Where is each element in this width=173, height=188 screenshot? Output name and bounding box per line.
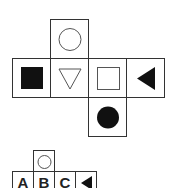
- face-bottom: [88, 97, 127, 137]
- option-label-b: B: [34, 175, 54, 188]
- circle-filled-icon: [89, 98, 128, 138]
- face-center-right: [88, 58, 127, 98]
- triangle-left-filled-icon: [127, 59, 166, 99]
- option-label-a: A: [13, 175, 33, 188]
- option-top: [33, 150, 55, 172]
- face-left: [12, 58, 51, 98]
- triangle-left-filled-icon: [76, 172, 98, 188]
- face-right: [126, 58, 165, 98]
- option-b[interactable]: B: [33, 171, 55, 188]
- circle-outline-icon: [34, 151, 56, 173]
- circle-outline-icon: [51, 20, 90, 60]
- square-filled-icon: [13, 59, 52, 99]
- option-a[interactable]: A: [12, 171, 34, 188]
- face-top: [50, 19, 89, 59]
- triangle-down-outline-icon: [51, 59, 90, 99]
- square-outline-icon: [89, 59, 128, 99]
- option-label-c: C: [55, 175, 75, 188]
- option-last: [75, 171, 97, 188]
- face-center: [50, 58, 89, 98]
- option-c[interactable]: C: [54, 171, 76, 188]
